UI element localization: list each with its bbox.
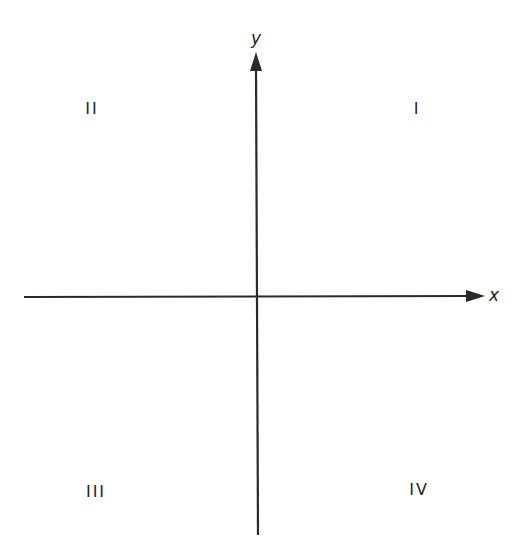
quadrant-label-i: I [414,101,421,117]
y-axis-arrow-icon [250,52,262,71]
coordinate-plane-diagram: y x I II III IV [0,0,528,559]
x-axis-label: x [489,287,499,304]
x-axis-arrow-icon [466,290,485,302]
axes-graphic [0,0,528,559]
x-axis-line [24,296,472,297]
y-axis-line [256,66,258,535]
quadrant-label-ii: II [85,101,98,117]
y-axis-label: y [251,30,261,47]
quadrant-label-iii: III [86,484,106,500]
quadrant-label-iv: IV [409,482,429,498]
